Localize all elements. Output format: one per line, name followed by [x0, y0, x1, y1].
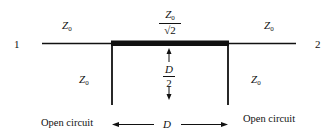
port-2-label: 2 [315, 39, 321, 50]
stub-length-label: D 2 [163, 64, 175, 89]
center-line-impedance: Z0 √2 [159, 9, 181, 36]
right-open-circuit-label: Open circuit [243, 113, 295, 124]
right-stub-impedance: Z0 [251, 74, 261, 87]
port-1-label: 1 [14, 39, 20, 50]
left-stub-impedance: Z0 [79, 74, 89, 87]
left-open-circuit-label: Open circuit [41, 117, 93, 128]
spacing-label: D [163, 119, 171, 130]
right-line-impedance: Z0 [264, 20, 274, 33]
left-line-impedance: Z0 [62, 20, 72, 33]
center-thick-line [111, 41, 229, 47]
